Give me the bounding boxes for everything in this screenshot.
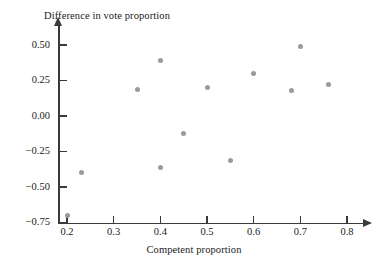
y-axis-tick — [60, 80, 67, 81]
data-point — [298, 44, 303, 49]
y-axis-tick — [60, 44, 67, 45]
x-axis-tick-label: 0.2 — [47, 227, 87, 238]
x-axis-tick — [300, 216, 301, 223]
y-axis-tick — [60, 186, 67, 187]
data-point — [205, 85, 210, 90]
data-point — [251, 71, 256, 76]
x-axis-tick — [346, 216, 347, 223]
x-axis-tick-label: 0.4 — [140, 227, 180, 238]
data-point — [79, 170, 84, 175]
data-point — [181, 131, 186, 136]
y-axis-tick-label: −0.75 — [14, 217, 50, 228]
y-axis-tick — [60, 115, 67, 116]
data-point — [158, 165, 163, 170]
y-axis-line — [58, 25, 60, 224]
data-point — [289, 88, 294, 93]
x-axis-tick — [113, 216, 114, 223]
data-point — [158, 58, 163, 63]
x-axis-tick-label: 0.3 — [94, 227, 134, 238]
x-axis-tick — [160, 216, 161, 223]
y-axis-tick-label: −0.25 — [14, 146, 50, 157]
x-axis-arrow-icon — [363, 219, 372, 227]
x-axis-tick — [253, 216, 254, 223]
y-axis-tick-label: 0.50 — [14, 40, 50, 51]
y-axis-tick — [60, 151, 67, 152]
x-axis-tick-label: 0.8 — [327, 227, 367, 238]
x-axis-title: Competent proportion — [0, 244, 388, 255]
x-axis-tick-label: 0.7 — [280, 227, 320, 238]
y-axis-tick-label: 0.00 — [14, 111, 50, 122]
y-axis-tick-label: −0.50 — [14, 182, 50, 193]
data-point — [228, 158, 233, 163]
scatter-plot-figure: Difference in vote proportion 0.500.250.… — [0, 0, 388, 265]
x-axis-tick — [206, 216, 207, 223]
x-axis-line — [58, 223, 366, 225]
x-axis-tick-label: 0.6 — [234, 227, 274, 238]
x-axis-tick-label: 0.5 — [187, 227, 227, 238]
data-point — [65, 213, 70, 218]
y-axis-arrow-icon — [54, 17, 62, 26]
plot-area: 0.500.250.00−0.25−0.50−0.75 0.20.30.40.5… — [0, 0, 388, 265]
y-axis-tick-label: 0.25 — [14, 75, 50, 86]
data-point — [135, 87, 140, 92]
data-point — [326, 82, 331, 87]
